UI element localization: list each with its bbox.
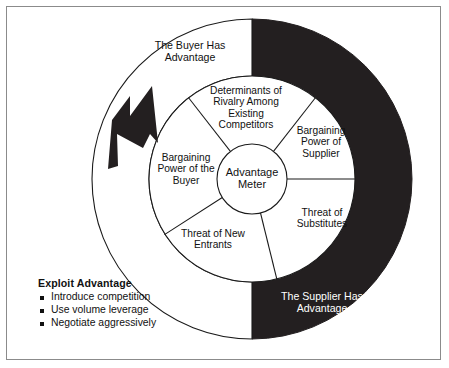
legend-item-label: Use volume leverage <box>51 304 149 315</box>
legend-title: Exploit Advantage <box>38 277 228 289</box>
square-bullet-icon <box>40 296 44 300</box>
legend-item: Introduce competition <box>38 291 228 303</box>
legend-list: Introduce competition Use volume leverag… <box>38 291 228 329</box>
legend-item: Use volume leverage <box>38 304 228 316</box>
exploit-advantage-legend: Exploit Advantage Introduce competition … <box>38 277 228 330</box>
square-bullet-icon <box>40 322 44 326</box>
legend-item: Negotiate aggressively <box>38 317 228 329</box>
hub-circle <box>217 144 287 214</box>
diagram-figure: The Buyer Has Advantage The Supplier Has… <box>0 0 449 368</box>
legend-item-label: Negotiate aggressively <box>51 317 156 328</box>
legend-item-label: Introduce competition <box>51 291 150 302</box>
square-bullet-icon <box>40 309 44 313</box>
